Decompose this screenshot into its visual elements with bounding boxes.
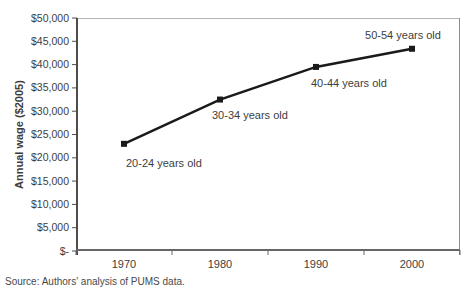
x-tick-label: 1990	[284, 258, 348, 271]
plot-area: 20-24 years old30-34 years old40-44 year…	[76, 18, 460, 252]
y-tick-label: $45,000	[0, 35, 69, 48]
annual-wage-line-chart: Annual wage ($2005) 20-24 years old30-34…	[0, 0, 472, 297]
point-label: 30-34 years old	[212, 109, 288, 121]
y-tick-label: $10,000	[0, 198, 69, 211]
y-tick-label: $-	[0, 245, 69, 258]
data-point-marker	[121, 141, 127, 147]
x-tick-label: 1970	[92, 258, 156, 271]
y-tick-label: $35,000	[0, 81, 69, 94]
y-tick-label: $5,000	[0, 221, 69, 234]
y-tick-label: $40,000	[0, 58, 69, 71]
data-point-marker	[313, 64, 319, 70]
wage-series-line	[124, 49, 412, 144]
point-label: 40-44 years old	[311, 77, 387, 89]
source-note: Source: Authors' analysis of PUMS data.	[5, 276, 185, 287]
y-tick-label: $20,000	[0, 151, 69, 164]
data-point-marker	[217, 97, 223, 103]
y-tick-label: $15,000	[0, 175, 69, 188]
x-tick-label: 1980	[188, 258, 252, 271]
x-tick-label: 2000	[380, 258, 444, 271]
y-tick-label: $30,000	[0, 105, 69, 118]
data-point-marker	[409, 46, 415, 52]
y-tick-label: $50,000	[0, 12, 69, 25]
y-tick-label: $25,000	[0, 128, 69, 141]
point-label: 50-54 years old	[365, 29, 441, 41]
point-label: 20-24 years old	[126, 157, 202, 169]
